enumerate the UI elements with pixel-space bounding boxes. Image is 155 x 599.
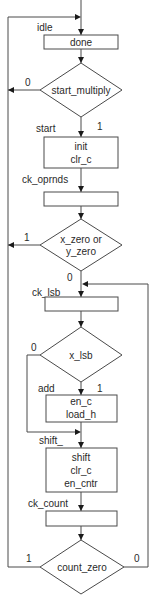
arrow-down-icon [78, 291, 84, 297]
state-label-idle: idle [37, 22, 53, 33]
box-shift-line1: shift [72, 452, 91, 463]
state-label-shift: shift_ [39, 435, 63, 446]
box-done-line1: done [70, 37, 93, 48]
decision-zero-check-line1: x_zero or [60, 234, 102, 245]
box-add-line1: en_c [70, 396, 92, 407]
box-init-line2: clr_c [70, 154, 91, 165]
decision-count-zero: count_zero [40, 540, 124, 594]
arrow-down-icon [78, 57, 84, 63]
box-ck-count [46, 511, 117, 526]
arrow-down-icon [78, 442, 84, 448]
box-ck-lsb [45, 297, 118, 311]
arrow-down-icon [78, 213, 84, 219]
state-label-ck-lsb: ck_lsb [32, 287, 61, 298]
multiplier-flowchart: idle done start_multiply 0 1 start init … [0, 0, 155, 599]
branch-label-0: 0 [25, 77, 31, 88]
decision-zero-check: x_zero or y_zero [40, 219, 122, 271]
box-done: done [44, 35, 118, 49]
arrow-down-icon [78, 534, 84, 540]
arrow-down-icon [78, 505, 84, 511]
arrow-right-icon [75, 14, 81, 20]
branch-label-1: 1 [24, 232, 30, 243]
state-label-add: add [38, 383, 55, 394]
box-shift: shift clr_c en_cntr [46, 448, 117, 492]
state-label-start: start [36, 123, 56, 134]
box-init: init clr_c [44, 137, 118, 168]
branch-label-0: 0 [67, 272, 73, 283]
box-add-line2: load_h [66, 409, 96, 420]
arrow-right-icon [75, 429, 81, 435]
state-label-ck-count: ck_count [28, 498, 68, 509]
decision-start-multiply-text: start_multiply [52, 85, 111, 96]
decision-count-zero-text: count_zero [57, 562, 107, 573]
branch-label-1: 1 [97, 121, 103, 132]
box-ck-oprnds [44, 192, 118, 206]
arrow-down-icon [78, 131, 84, 137]
box-shift-line3: en_cntr [64, 478, 98, 489]
arrow-left-icon [82, 281, 88, 287]
box-add: en_c load_h [46, 395, 117, 422]
decision-start-multiply: start_multiply [40, 63, 122, 117]
branch-label-1: 1 [26, 553, 32, 564]
decision-x-lsb-text: x_lsb [69, 350, 93, 361]
branch-label-0: 0 [31, 342, 37, 353]
box-shift-line2: clr_c [70, 465, 91, 476]
branch-label-0: 0 [134, 553, 140, 564]
box-init-line1: init [75, 141, 88, 152]
arrow-down-icon [78, 29, 84, 35]
decision-x-lsb: x_lsb [40, 327, 122, 382]
branch-label-1: 1 [97, 383, 103, 394]
arrow-down-icon [78, 186, 84, 192]
arrow-down-icon [78, 321, 84, 327]
decision-zero-check-line2: y_zero [66, 246, 96, 257]
arrow-down-icon [78, 389, 84, 395]
arrow-left-icon [8, 242, 14, 248]
state-label-ck-oprnds: ck_oprnds [22, 174, 68, 185]
arrow-left-icon [8, 87, 14, 93]
